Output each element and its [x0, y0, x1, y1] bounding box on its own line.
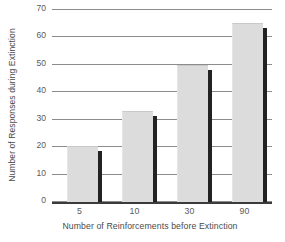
y-tick-label: 20 — [20, 140, 46, 150]
x-axis-title: Number of Reinforcements before Extincti… — [30, 221, 270, 231]
bar-group[interactable] — [232, 10, 267, 202]
bar-group[interactable] — [122, 10, 157, 202]
x-tick-label: 10 — [115, 206, 155, 216]
bar-group[interactable] — [177, 10, 212, 202]
x-tick-label: 90 — [225, 206, 265, 216]
y-tick-label: 0 — [20, 195, 46, 205]
y-tick-label: 30 — [20, 113, 46, 123]
y-tick-label: 50 — [20, 58, 46, 68]
x-tick-label: 30 — [170, 206, 210, 216]
y-axis-title: Number of Responses during Extinction — [4, 4, 20, 206]
x-tick-label: 5 — [60, 206, 100, 216]
y-tick-label: 40 — [20, 85, 46, 95]
bar[interactable] — [122, 111, 153, 203]
y-tick-label: 70 — [20, 3, 46, 13]
x-axis-line — [52, 202, 272, 204]
bar[interactable] — [177, 65, 208, 202]
bar[interactable] — [67, 146, 98, 202]
bar[interactable] — [232, 23, 263, 202]
bar-chart-figure: Number of Responses during Extinction 01… — [0, 0, 285, 242]
y-tick-label: 10 — [20, 168, 46, 178]
plot-area: 010203040506070 5103090 — [52, 10, 272, 202]
y-tick-label: 60 — [20, 30, 46, 40]
bar-group[interactable] — [67, 10, 102, 202]
